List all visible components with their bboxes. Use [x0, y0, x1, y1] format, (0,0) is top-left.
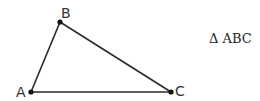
triangle-title: Δ ABC	[209, 31, 252, 46]
vertex-b-label: B	[61, 5, 71, 21]
edge-ab	[31, 22, 60, 92]
vertex-a-point	[28, 89, 33, 94]
triangle-diagram: A B C Δ ABC	[0, 0, 260, 101]
vertex-points	[28, 19, 173, 94]
vertex-c-label: C	[175, 83, 185, 99]
vertex-c-point	[168, 89, 173, 94]
edge-bc	[60, 22, 171, 92]
triangle-edges	[31, 22, 171, 92]
vertex-a-label: A	[16, 84, 26, 100]
